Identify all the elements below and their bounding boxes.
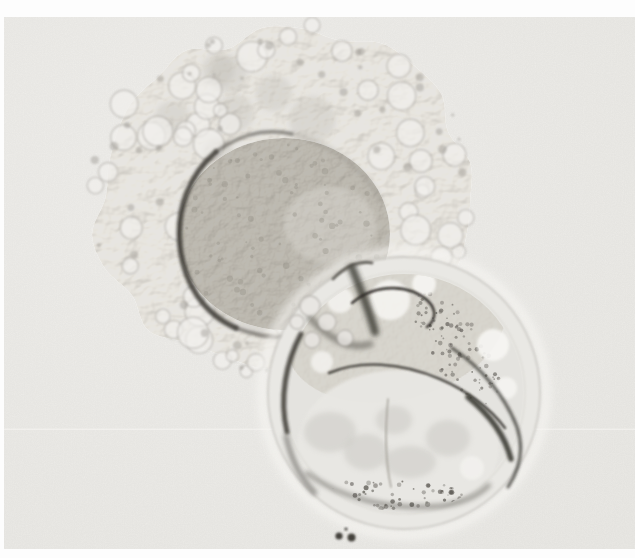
bottom-speckle [364, 493, 366, 495]
trophectoderm-speckle [415, 321, 417, 323]
oocyte-grain [257, 268, 262, 273]
trophectoderm-speckle [420, 325, 422, 327]
trophectoderm-speckle [453, 363, 457, 367]
cumulus-dark-dot [457, 138, 460, 141]
bottom-speckle [450, 487, 453, 490]
oocyte-grain [193, 196, 198, 201]
trophectoderm-speckle [456, 324, 459, 327]
bottom-speckle [373, 482, 375, 484]
oocyte-grain [245, 241, 247, 243]
oocyte-grain [319, 238, 322, 241]
oocyte-grain [245, 174, 250, 179]
oocyte-grain [295, 147, 298, 150]
cumulus-dark-dot [297, 59, 304, 66]
cumulus-dark-dot [136, 147, 142, 153]
trophectoderm-speckle [446, 349, 448, 351]
oocyte-grain [324, 184, 326, 186]
oocyte-grain [248, 216, 254, 222]
cumulus-cell-bubble [173, 127, 192, 146]
oocyte-grain [185, 226, 188, 229]
oocyte-grain [363, 220, 369, 226]
trophectoderm-speckle [456, 357, 460, 361]
trophectoderm-speckle [447, 350, 451, 354]
trophectoderm-speckle [435, 312, 437, 314]
junction-cumulus-cell [304, 332, 320, 348]
oocyte-grain [250, 303, 254, 307]
oocyte-grain [325, 191, 329, 195]
cumulus-dark-dot [373, 146, 380, 153]
bright-vesicle [495, 377, 517, 399]
trophectoderm-speckle [468, 348, 472, 352]
bottom-speckle [358, 493, 361, 496]
cumulus-dark-dot [436, 128, 443, 135]
trophectoderm-speckle [473, 379, 476, 382]
trophectoderm-speckle [479, 379, 481, 381]
cumulus-dark-dot [245, 341, 249, 345]
trophectoderm-speckle [449, 323, 453, 327]
cumulus-dark-dot [156, 145, 162, 151]
cumulus-dark-dot [233, 341, 242, 350]
trophectoderm-speckle [446, 317, 448, 319]
trophectoderm-speckle [480, 387, 483, 390]
trophectoderm-speckle [429, 329, 431, 331]
oocyte-grain [260, 158, 263, 161]
cumulus-dark-dot [355, 49, 361, 55]
cumulus-dark-dot [91, 156, 99, 164]
oocyte-grain [207, 178, 212, 183]
cavity-shadow [384, 446, 436, 478]
cumulus-cell-bubble [280, 28, 297, 45]
bottom-speckle [413, 488, 415, 490]
cumulus-cell-bubble [387, 54, 411, 78]
oocyte-grain [236, 196, 238, 198]
cumulus-cell-bubble [196, 77, 222, 103]
bright-vesicle [477, 329, 509, 361]
oocyte-grain [257, 310, 263, 316]
oocyte-grain [201, 211, 204, 214]
bottom-speckle [431, 489, 434, 492]
oocyte-grain [283, 263, 289, 269]
oocyte-grain [195, 270, 200, 275]
cumulus-cell-bubble [415, 177, 435, 197]
bottom-speckle [401, 481, 403, 483]
oocyte-grain [259, 237, 264, 242]
cumulus-dark-dot [210, 39, 215, 44]
cumulus-dark-dot [201, 329, 209, 337]
cumulus-dark-dot [180, 301, 188, 309]
cumulus-dark-dot [379, 107, 385, 113]
oocyte-grain [318, 202, 323, 207]
oocyte-grain [365, 191, 370, 196]
cumulus-dark-dot [416, 83, 424, 91]
debris-speck [335, 532, 342, 539]
cumulus-dark-dot [156, 198, 164, 206]
trophectoderm-speckle [463, 335, 465, 337]
cumulus-dark-dot [157, 76, 164, 83]
cumulus-cell-bubble [458, 210, 474, 226]
cumulus-dark-dot [318, 71, 325, 78]
cumulus-cell-bubble [110, 90, 137, 117]
trophectoderm-speckle [441, 352, 445, 356]
oocyte-grain [319, 218, 324, 223]
cumulus-dark-dot [213, 73, 216, 76]
oocyte-grain [323, 248, 329, 254]
oocyte-grain [298, 276, 303, 281]
oocyte-grain [312, 233, 318, 239]
cavity-shadow [344, 434, 388, 470]
junction-cumulus-cell [290, 315, 304, 329]
oocyte-grain [338, 219, 343, 224]
trophectoderm-speckle [451, 372, 455, 376]
trophectoderm-speckle [440, 301, 444, 305]
cumulus-cell-bubble [120, 217, 142, 239]
junction-cumulus-cell [318, 313, 336, 331]
bottom-speckle [398, 498, 401, 501]
trophectoderm-speckle [465, 322, 469, 326]
oocyte-grain [287, 144, 290, 147]
oocyte-grain [192, 207, 198, 213]
trophectoderm-speckle [439, 327, 443, 331]
photo-area [4, 17, 635, 549]
cumulus-dark-dot [206, 43, 211, 48]
bottom-speckle [422, 490, 426, 494]
cumulus-cell-bubble [438, 223, 463, 248]
cumulus-cell-bubble [214, 104, 228, 118]
cumulus-dark-dot [358, 65, 363, 70]
cumulus-cell-bubble [87, 177, 103, 193]
